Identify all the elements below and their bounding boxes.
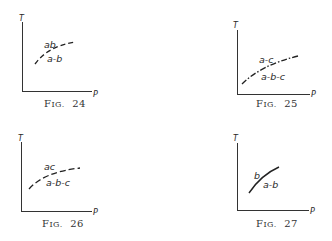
region-label-above: ab bbox=[44, 39, 56, 50]
caption-smallcaps: IG. bbox=[263, 220, 276, 229]
caption-number: 27 bbox=[284, 218, 298, 229]
figure-25-caption: FIG. 25 bbox=[256, 98, 298, 109]
caption-number: 26 bbox=[70, 218, 84, 229]
caption-smallcaps: IG. bbox=[51, 100, 64, 109]
figure-26-caption: FIG. 26 bbox=[42, 218, 84, 229]
y-axis-label: T bbox=[18, 134, 24, 143]
figure-25-diagram: T P a-c a-b-c bbox=[166, 0, 332, 120]
x-axis-label: P bbox=[311, 90, 316, 99]
x-axis-label: P bbox=[310, 207, 315, 216]
region-label-above: b bbox=[254, 170, 260, 181]
figure-24-caption: FIG. 24 bbox=[44, 98, 86, 109]
region-label-below: a-b-c bbox=[46, 177, 71, 188]
caption-number: 25 bbox=[284, 98, 298, 109]
figure-27-diagram: T P b a-b bbox=[166, 120, 332, 241]
region-label-above: a-c bbox=[259, 54, 274, 65]
y-axis-label: T bbox=[19, 14, 25, 23]
region-label-below: a-b-c bbox=[261, 71, 286, 82]
caption-number: 24 bbox=[72, 98, 86, 109]
caption-smallcaps: IG. bbox=[263, 100, 276, 109]
y-axis-label: T bbox=[233, 134, 239, 143]
figure-27-caption: FIG. 27 bbox=[256, 218, 298, 229]
x-axis-label: P bbox=[93, 90, 98, 99]
region-label-above: ac bbox=[44, 161, 56, 172]
y-axis-label: T bbox=[233, 21, 239, 30]
region-label-below: a-b bbox=[263, 179, 278, 190]
region-label-below: a-b bbox=[47, 53, 62, 64]
caption-smallcaps: IG. bbox=[49, 220, 62, 229]
x-axis-label: P bbox=[93, 208, 98, 217]
